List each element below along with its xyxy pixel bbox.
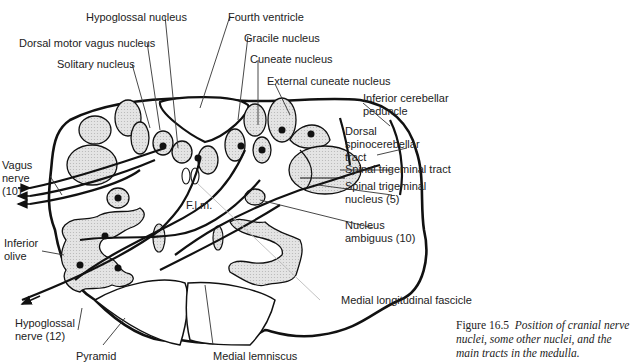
pyramids — [95, 280, 275, 345]
label-external-cuneate-nucleus: External cuneate nucleus — [267, 75, 391, 88]
figure-caption: Figure 16.5 Position of cranial nerve nu… — [456, 318, 636, 360]
label-line: nerve (12) — [15, 330, 65, 342]
label-line: olive — [4, 250, 27, 262]
label-inferior-olive: Inferior olive — [4, 237, 38, 263]
label-spinal-trigeminal-tract: Spinal trigeminal tract — [345, 163, 451, 176]
label-line: ambiguus (10) — [345, 232, 415, 244]
label-cuneate-nucleus: Cuneate nucleus — [250, 53, 333, 66]
label-vagus-nerve: Vagus nerve (10) — [2, 159, 32, 198]
label-gracile-nucleus: Gracile nucleus — [244, 32, 320, 45]
label-medial-lemniscus: Medial lemniscus — [213, 350, 297, 363]
label-spinal-trigeminal-nucleus: Spinal trigeminal nucleus (5) — [345, 180, 426, 206]
label-hypoglossal-nerve: Hypoglossal nerve (12) — [15, 317, 75, 343]
label-line: Nucleus — [345, 219, 385, 231]
label-line: tract — [345, 151, 366, 163]
label-line: Vagus — [2, 159, 32, 171]
label-line: Spinal trigeminal — [345, 180, 426, 192]
label-line: (10) — [2, 185, 22, 197]
label-line: Hypoglossal — [15, 317, 75, 329]
label-line: spinocerebellar — [345, 138, 420, 150]
label-dorsal-motor-vagus-nucleus: Dorsal motor vagus nucleus — [19, 37, 155, 50]
label-flm: F.l.m. — [186, 199, 212, 212]
label-dorsal-spinocerebellar-tract: Dorsal spinocerebellar tract — [345, 125, 420, 164]
inferior-olive-left — [61, 208, 144, 292]
label-line: Inferior — [4, 237, 38, 249]
label-inferior-cerebellar-peduncle: Inferior cerebellar peduncle — [363, 92, 449, 118]
label-line: Dorsal — [345, 125, 377, 137]
label-hypoglossal-nucleus: Hypoglossal nucleus — [86, 11, 187, 24]
label-line: peduncle — [363, 105, 408, 117]
figure-number: Figure 16.5 — [456, 319, 509, 331]
label-solitary-nucleus: Solitary nucleus — [57, 58, 135, 71]
label-line: nerve — [2, 172, 30, 184]
label-pyramid: Pyramid — [76, 350, 116, 363]
label-medial-longitudinal-fascicle: Medial longitudinal fascicle — [341, 294, 472, 307]
label-line: Inferior cerebellar — [363, 92, 449, 104]
label-line: nucleus (5) — [345, 193, 399, 205]
label-nucleus-ambiguus: Nucleus ambiguus (10) — [345, 219, 415, 245]
label-fourth-ventricle: Fourth ventricle — [228, 11, 304, 24]
